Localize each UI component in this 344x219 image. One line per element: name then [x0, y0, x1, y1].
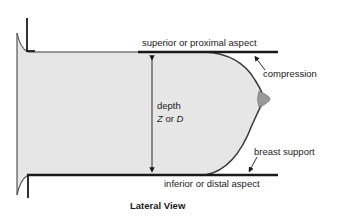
mammography-lateral-view-diagram: superior or proximal aspect compression …	[0, 0, 344, 219]
caption-lateral-view: Lateral View	[130, 200, 186, 211]
inferior-label: inferior or distal aspect	[164, 178, 260, 189]
superior-label: superior or proximal aspect	[142, 37, 257, 48]
depth-symbol-d: D	[177, 113, 184, 124]
breast-support-pointer-arrow	[250, 157, 257, 170]
depth-symbol-label: Z or D	[156, 113, 184, 124]
depth-symbol-or: or	[163, 113, 177, 124]
compression-label: compression	[263, 68, 317, 79]
breast-support-label: breast support	[254, 146, 315, 157]
depth-label: depth	[157, 100, 181, 111]
nipple	[258, 91, 271, 107]
